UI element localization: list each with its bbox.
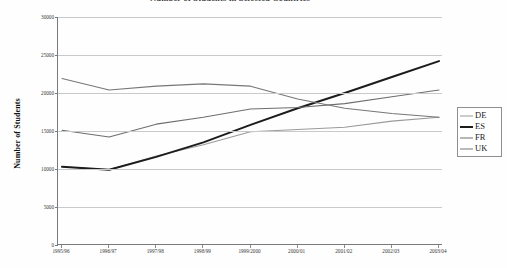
x-tick-mark bbox=[61, 245, 62, 248]
y-tick-label: 25000 bbox=[41, 52, 54, 58]
y-tick-mark bbox=[55, 245, 58, 246]
x-tick-label: 2002/03 bbox=[382, 248, 399, 254]
series-line-fr bbox=[62, 90, 439, 137]
x-tick-label: 2001/02 bbox=[335, 248, 352, 254]
gridline bbox=[58, 207, 442, 208]
x-tick-label: 2003/04 bbox=[429, 248, 446, 254]
series-line-es bbox=[62, 61, 439, 170]
legend-line-icon bbox=[459, 113, 473, 119]
legend: DEESFRUK bbox=[457, 107, 502, 157]
gridline bbox=[58, 169, 442, 170]
plot-area bbox=[57, 17, 442, 245]
legend-item-de[interactable]: DE bbox=[459, 110, 499, 121]
gridline bbox=[58, 131, 442, 132]
y-tick-mark bbox=[55, 131, 58, 132]
x-tick-mark bbox=[108, 245, 109, 248]
x-tick-label: 1996/97 bbox=[100, 248, 117, 254]
gridline bbox=[58, 17, 442, 18]
legend-line-icon bbox=[459, 135, 473, 141]
x-axis-tick-labels: 1995/961996/971997/981998/991999/2000200… bbox=[57, 248, 442, 260]
x-tick-label: 1999/2000 bbox=[238, 248, 260, 254]
gridline bbox=[58, 55, 442, 56]
y-tick-mark bbox=[55, 207, 58, 208]
x-tick-label: 1995/96 bbox=[52, 248, 69, 254]
legend-item-label: FR bbox=[473, 133, 485, 142]
x-tick-mark bbox=[391, 245, 392, 248]
legend-item-fr[interactable]: FR bbox=[459, 132, 499, 143]
legend-item-es[interactable]: ES bbox=[459, 121, 499, 132]
x-tick-mark bbox=[438, 245, 439, 248]
x-tick-mark bbox=[202, 245, 203, 248]
legend-item-uk[interactable]: UK bbox=[459, 143, 499, 154]
legend-item-label: DE bbox=[473, 111, 486, 120]
x-tick-mark bbox=[250, 245, 251, 248]
y-tick-label: 30000 bbox=[41, 14, 54, 20]
y-tick-mark bbox=[55, 55, 58, 56]
x-tick-mark bbox=[155, 245, 156, 248]
y-tick-label: 10000 bbox=[41, 166, 54, 172]
x-tick-label: 1997/98 bbox=[147, 248, 164, 254]
x-tick-mark bbox=[344, 245, 345, 248]
y-axis-tick-labels: 050001000015000200002500030000 bbox=[18, 17, 54, 245]
gridline bbox=[58, 93, 442, 94]
y-tick-label: 15000 bbox=[41, 128, 54, 134]
x-tick-label: 2000/01 bbox=[288, 248, 305, 254]
x-tick-label: 1998/99 bbox=[194, 248, 211, 254]
chart-screenshot: Number of Students in Selected Countries… bbox=[0, 0, 507, 268]
chart-title: Number of Students in Selected Countries bbox=[0, 0, 460, 2]
y-tick-label: 5000 bbox=[44, 204, 54, 210]
y-tick-mark bbox=[55, 17, 58, 18]
legend-item-label: UK bbox=[473, 144, 487, 153]
y-tick-mark bbox=[55, 169, 58, 170]
legend-line-icon bbox=[459, 146, 473, 152]
y-tick-label: 20000 bbox=[41, 90, 54, 96]
y-tick-mark bbox=[55, 93, 58, 94]
legend-item-label: ES bbox=[473, 122, 485, 131]
legend-line-icon bbox=[459, 124, 473, 130]
x-tick-mark bbox=[297, 245, 298, 248]
